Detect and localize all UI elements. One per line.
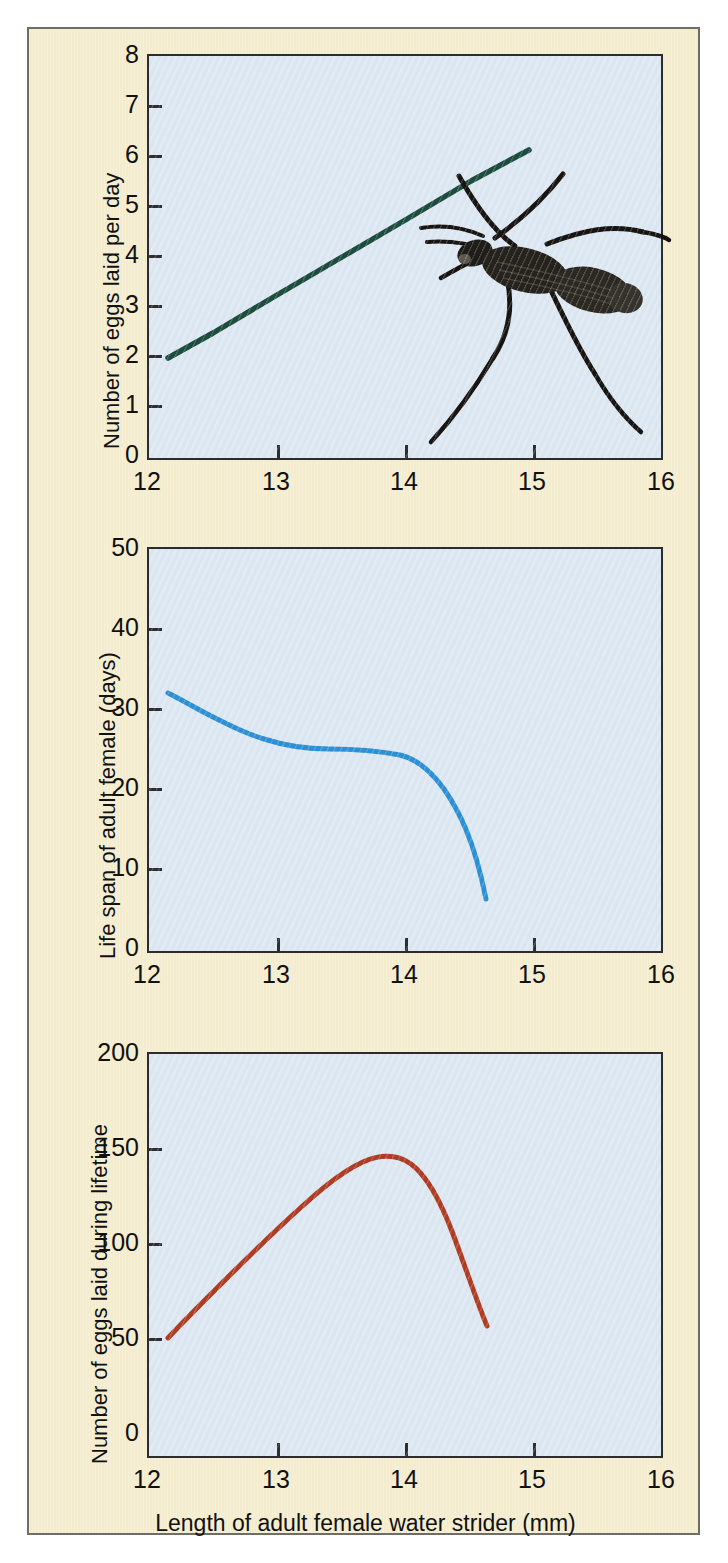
chart2-xtick-13: 13	[252, 962, 300, 987]
chart2-ytick-40: 40	[87, 615, 139, 640]
chart3-data-line	[149, 1054, 665, 1460]
chart3-xtick-15: 15	[508, 1467, 556, 1492]
chart2-ytick-10: 10	[87, 855, 139, 880]
chart2-plot-area	[147, 547, 663, 953]
chart1-ytick-1: 1	[107, 392, 139, 417]
chart3-xtick-14: 14	[380, 1467, 428, 1492]
chart1-ytick-2: 2	[107, 342, 139, 367]
chart1-xtick-12: 12	[123, 469, 171, 494]
chart3-ytick-200: 200	[67, 1040, 139, 1065]
chart3-xtick-12: 12	[123, 1467, 171, 1492]
chart-eggs-per-day: Number of eggs laid per day 8 7 6 5 4 3 …	[29, 29, 702, 499]
chart2-ytick-50: 50	[87, 535, 139, 560]
chart3-y-axis-title: Number of eggs laid during lifetime	[89, 1124, 111, 1464]
chart1-ytick-6: 6	[107, 142, 139, 167]
chart3-ytick-50: 50	[67, 1325, 139, 1350]
chart2-xtick-16: 16	[637, 962, 685, 987]
chart3-plot-area	[147, 1052, 663, 1458]
chart1-xtick-15: 15	[508, 469, 556, 494]
chart2-xtick-14: 14	[380, 962, 428, 987]
chart-lifetime-eggs: Number of eggs laid during lifetime 200 …	[29, 1007, 702, 1537]
figure-root: Number of eggs laid per day 8 7 6 5 4 3 …	[0, 0, 728, 1563]
chart1-ytick-4: 4	[107, 242, 139, 267]
figure-panel: Number of eggs laid per day 8 7 6 5 4 3 …	[27, 27, 700, 1535]
chart1-ytick-3: 3	[107, 292, 139, 317]
chart1-xtick-13: 13	[252, 469, 300, 494]
chart3-ytick-150: 150	[67, 1135, 139, 1160]
chart1-ytick-8: 8	[107, 42, 139, 67]
x-axis-title: Length of adult female water strider (mm…	[29, 1512, 702, 1535]
chart2-ytick-20: 20	[87, 775, 139, 800]
chart2-xtick-15: 15	[508, 962, 556, 987]
water-strider-photo	[397, 166, 697, 466]
chart3-ytick-0: 0	[67, 1420, 139, 1445]
chart3-ytick-100: 100	[67, 1230, 139, 1255]
chart1-ytick-5: 5	[107, 192, 139, 217]
chart3-xtick-13: 13	[252, 1467, 300, 1492]
chart-life-span: Life span of adult female (days) 50 40 3…	[29, 522, 702, 992]
chart1-xtick-14: 14	[380, 469, 428, 494]
chart1-plot-area	[147, 54, 663, 460]
chart3-xtick-16: 16	[637, 1467, 685, 1492]
chart1-ytick-0: 0	[107, 442, 139, 467]
chart1-ytick-7: 7	[107, 92, 139, 117]
chart2-ytick-30: 30	[87, 695, 139, 720]
chart2-xtick-12: 12	[123, 962, 171, 987]
chart1-xtick-16: 16	[637, 469, 685, 494]
chart2-ytick-0: 0	[87, 935, 139, 960]
chart2-data-line	[149, 549, 665, 955]
